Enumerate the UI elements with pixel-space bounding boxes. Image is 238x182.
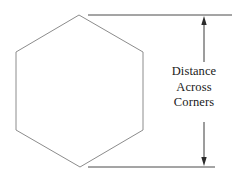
hexagon-shape — [16, 15, 143, 167]
hexagon-dimension-diagram: Distance Across Corners — [0, 0, 238, 182]
dimension-label: Distance Across Corners — [150, 64, 238, 111]
bottom-arrowhead-icon — [201, 157, 206, 166]
dimension-label-line-2: Across — [150, 80, 238, 96]
dimension-label-line-1: Distance — [150, 64, 238, 80]
dimension-label-line-3: Corners — [150, 95, 238, 111]
top-arrowhead-icon — [201, 16, 206, 25]
